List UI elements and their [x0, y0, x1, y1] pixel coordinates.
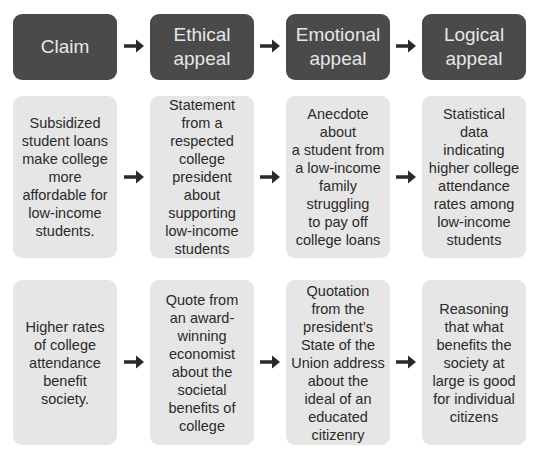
row2-logical-cell: Reasoning that what benefits the society…	[422, 280, 526, 445]
row2-ethical-cell: Quote from an award- winning economist a…	[150, 280, 254, 445]
header-claim: Claim	[13, 14, 117, 80]
cell-text: Higher rates of college attendance benef…	[26, 318, 105, 408]
right-arrow-icon	[123, 169, 145, 185]
row1-ethical-cell: Statement from a respected college presi…	[150, 96, 254, 258]
right-arrow-icon	[259, 38, 281, 54]
header-label: Ethical appeal	[173, 23, 230, 71]
header-label: Logical appeal	[444, 23, 504, 71]
row1-claim-cell: Subsidized student loans make college mo…	[13, 96, 117, 258]
header-label: Claim	[41, 35, 90, 59]
cell-text: Quotation from the president’s State of …	[291, 282, 385, 444]
right-arrow-icon	[123, 354, 145, 370]
cell-text: Quote from an award- winning economist a…	[166, 291, 239, 435]
right-arrow-icon	[395, 354, 417, 370]
right-arrow-icon	[259, 169, 281, 185]
row1-logical-cell: Statistical data indicating higher colle…	[422, 96, 526, 258]
header-ethical-appeal: Ethical appeal	[150, 14, 254, 80]
header-emotional-appeal: Emotional appeal	[286, 14, 390, 80]
cell-text: Statement from a respected college presi…	[165, 96, 238, 258]
header-logical-appeal: Logical appeal	[422, 14, 526, 80]
row2-emotional-cell: Quotation from the president’s State of …	[286, 280, 390, 445]
cell-text: Subsidized student loans make college mo…	[22, 114, 108, 240]
right-arrow-icon	[395, 38, 417, 54]
right-arrow-icon	[395, 169, 417, 185]
cell-text: Statistical data indicating higher colle…	[429, 105, 519, 249]
cell-text: Anecdote about a student from a low-inco…	[290, 105, 386, 249]
header-label: Emotional appeal	[296, 23, 381, 71]
cell-text: Reasoning that what benefits the society…	[432, 300, 515, 426]
right-arrow-icon	[123, 38, 145, 54]
row1-emotional-cell: Anecdote about a student from a low-inco…	[286, 96, 390, 258]
row2-claim-cell: Higher rates of college attendance benef…	[13, 280, 117, 445]
right-arrow-icon	[259, 354, 281, 370]
